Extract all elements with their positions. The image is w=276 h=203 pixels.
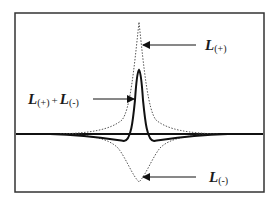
label-sum: L(+)+L(-) [28, 92, 79, 107]
curve-l-plus [60, 22, 218, 134]
label-sum-main1: L [28, 91, 37, 107]
label-sum-main2: L [60, 91, 69, 107]
label-sum-sub2: (-) [69, 97, 79, 108]
label-l-plus-sub: (+) [214, 43, 226, 54]
curve-l-minus [60, 134, 218, 182]
label-l-minus: L(-) [209, 170, 228, 185]
label-l-minus-main: L [209, 169, 218, 185]
label-l-plus: L(+) [205, 38, 226, 53]
label-l-plus-main: L [205, 37, 214, 53]
label-sum-sub1: (+) [37, 97, 49, 108]
label-sum-op: + [51, 94, 57, 106]
label-l-minus-sub: (-) [218, 175, 228, 186]
